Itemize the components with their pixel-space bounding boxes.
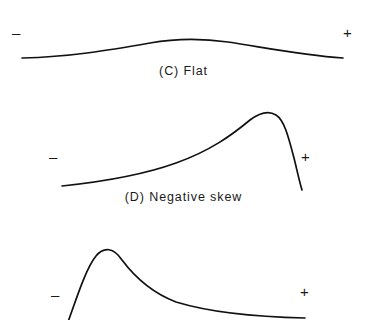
positive-skew-axis-plus-sign: + bbox=[300, 284, 309, 299]
positive-skew-curve-svg bbox=[0, 210, 367, 320]
panel-flat bbox=[0, 0, 367, 100]
flat-panel-label: (C) Flat bbox=[0, 64, 367, 78]
flat-distribution-curve bbox=[22, 39, 343, 58]
negative-skew-axis-plus-sign: + bbox=[301, 149, 310, 164]
flat-axis-minus-sign: – bbox=[12, 25, 20, 40]
negative-skew-axis-minus-sign: – bbox=[49, 149, 57, 164]
figure-root: – + (C) Flat – + (D) Negative skew – + bbox=[0, 0, 367, 320]
positive-skew-axis-minus-sign: – bbox=[51, 287, 59, 302]
positive-skew-distribution-curve bbox=[68, 250, 305, 320]
negative-skew-distribution-curve bbox=[62, 113, 302, 190]
flat-axis-plus-sign: + bbox=[343, 25, 352, 40]
negative-skew-panel-label: (D) Negative skew bbox=[0, 190, 367, 204]
flat-curve-svg bbox=[0, 0, 367, 100]
panel-positive-skew bbox=[0, 210, 367, 320]
